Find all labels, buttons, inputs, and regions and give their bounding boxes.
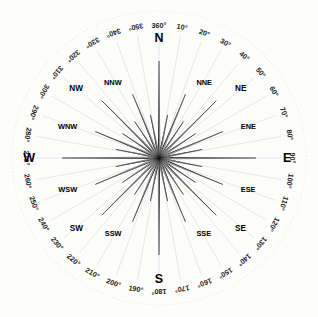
- ring-dot: [296, 210, 297, 211]
- ring-dot: [163, 304, 164, 305]
- ring-dot: [294, 101, 295, 102]
- ring-dot: [281, 77, 282, 78]
- ring-dot: [64, 45, 65, 46]
- degree-label: 20°: [198, 27, 211, 39]
- degree-label: 290°: [27, 104, 41, 121]
- radial-spoke: [37, 163, 130, 179]
- ring-dot: [180, 303, 181, 304]
- ring-dot: [252, 271, 253, 272]
- ring-dot: [228, 28, 229, 29]
- ring-dot: [146, 304, 147, 305]
- ring-dot: [59, 50, 60, 51]
- ring-dot: [122, 15, 123, 16]
- ring-dot: [34, 236, 35, 237]
- ring-dot: [262, 261, 263, 262]
- ring-dot: [61, 268, 62, 269]
- ring-dot: [206, 18, 207, 19]
- ring-dot: [301, 121, 302, 122]
- ring-dot: [29, 227, 30, 228]
- radial-spoke: [137, 188, 153, 281]
- degree-label: 10°: [176, 22, 188, 33]
- ring-dot: [106, 20, 107, 21]
- ring-dot: [51, 258, 52, 259]
- ring-dot: [209, 20, 210, 21]
- ring-dot: [305, 162, 306, 163]
- ring-dot: [293, 98, 294, 99]
- ring-dot: [29, 88, 30, 89]
- degree-label: 200°: [105, 276, 122, 290]
- ring-dot: [304, 135, 305, 136]
- ring-dot: [136, 12, 137, 13]
- ring-dot: [84, 31, 85, 32]
- ring-dot: [246, 39, 247, 40]
- ring-dot: [284, 234, 285, 235]
- ring-dot: [269, 60, 270, 61]
- ring-dot: [109, 296, 110, 297]
- ring-dot: [23, 215, 24, 216]
- ring-dot: [260, 264, 261, 265]
- ring-dot: [75, 37, 76, 38]
- ring-dot: [12, 168, 13, 169]
- ring-dot: [183, 13, 184, 14]
- ring-dot: [272, 251, 273, 252]
- ring-dot: [136, 303, 137, 304]
- ring-dot: [200, 16, 201, 17]
- ring-dot: [251, 44, 252, 45]
- ring-dot: [22, 103, 23, 104]
- ring-dot: [301, 193, 302, 194]
- compass-rose-svg: 360°10°20°30°40°50°60°70°80°90°100°110°1…: [0, 0, 318, 317]
- ring-dot: [304, 176, 305, 177]
- ring-dot: [19, 110, 20, 111]
- ring-dot: [287, 86, 288, 87]
- ring-dot: [45, 250, 46, 251]
- direction-label-se: SE: [235, 224, 246, 233]
- ring-dot: [303, 183, 304, 184]
- ring-dot: [240, 35, 241, 36]
- star-point-light-half: [158, 158, 159, 255]
- direction-label-w: W: [23, 151, 35, 165]
- degree-label: 130°: [253, 235, 270, 252]
- ring-dot: [67, 43, 68, 44]
- degree-label: 60°: [268, 85, 281, 99]
- ring-dot: [45, 65, 46, 66]
- direction-label-n: N: [154, 31, 163, 45]
- ring-dot: [306, 159, 307, 160]
- ring-dot: [179, 12, 180, 13]
- direction-label-ene: ENE: [241, 122, 256, 131]
- direction-label-nnw: NNW: [104, 78, 122, 87]
- ring-dot: [56, 263, 57, 264]
- ring-dot: [172, 11, 173, 12]
- ring-dot: [12, 147, 13, 148]
- direction-label-ese: ESE: [241, 185, 256, 194]
- direction-label-nne: NNE: [196, 78, 212, 87]
- ring-dot: [282, 237, 283, 238]
- ring-dot: [257, 266, 258, 267]
- degree-label: 150°: [217, 266, 234, 281]
- degree-label: 350°: [128, 21, 144, 32]
- ring-dot: [274, 249, 275, 250]
- degree-label: 30°: [219, 36, 233, 49]
- degree-label: 360°: [152, 21, 167, 30]
- ring-dot: [40, 70, 41, 71]
- ring-dot: [286, 231, 287, 232]
- direction-label-wsw: WSW: [58, 185, 77, 194]
- degree-label: 210°: [84, 266, 101, 281]
- ring-dot: [167, 304, 168, 305]
- ring-dot: [254, 46, 255, 47]
- ring-dot: [13, 175, 14, 176]
- degree-label: 190°: [128, 283, 144, 294]
- ring-dot: [16, 195, 17, 196]
- ring-dot: [12, 154, 13, 155]
- ring-dot: [12, 151, 13, 152]
- ring-dot: [139, 303, 140, 304]
- ring-dot: [102, 22, 103, 23]
- ring-dot: [232, 285, 233, 286]
- ring-dot: [169, 11, 170, 12]
- ring-dot: [49, 59, 50, 60]
- ring-dot: [33, 233, 34, 234]
- ring-dot: [96, 291, 97, 292]
- ring-dot: [247, 275, 248, 276]
- ring-dot: [303, 186, 304, 187]
- ring-dot: [216, 22, 217, 23]
- ring-dot: [90, 28, 91, 29]
